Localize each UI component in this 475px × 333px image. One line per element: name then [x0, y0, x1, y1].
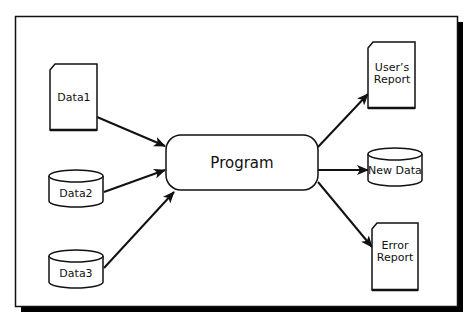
users-report-node: User’s Report: [368, 42, 415, 108]
new-data-label: New Data: [368, 164, 422, 177]
data1-label: Data1: [57, 91, 90, 104]
cylinder-top: [49, 250, 103, 262]
program-node: Program: [166, 135, 318, 190]
program-label: Program: [210, 154, 273, 172]
data3-label: Data3: [59, 267, 92, 280]
error-report-label-line2: Report: [377, 251, 414, 264]
data2-label: Data2: [59, 187, 92, 200]
new-data-node: New Data: [368, 148, 422, 186]
users-report-label-line2: Report: [374, 73, 411, 86]
cylinder-top: [368, 148, 422, 160]
data1-node: Data1: [50, 64, 97, 130]
data-flow-diagram: Program Data1 Data2 Data3 User’s Report …: [0, 0, 475, 333]
data3-node: Data3: [49, 250, 103, 288]
error-report-node: Error Report: [372, 223, 418, 290]
data2-node: Data2: [49, 170, 103, 207]
cylinder-top: [49, 170, 103, 182]
